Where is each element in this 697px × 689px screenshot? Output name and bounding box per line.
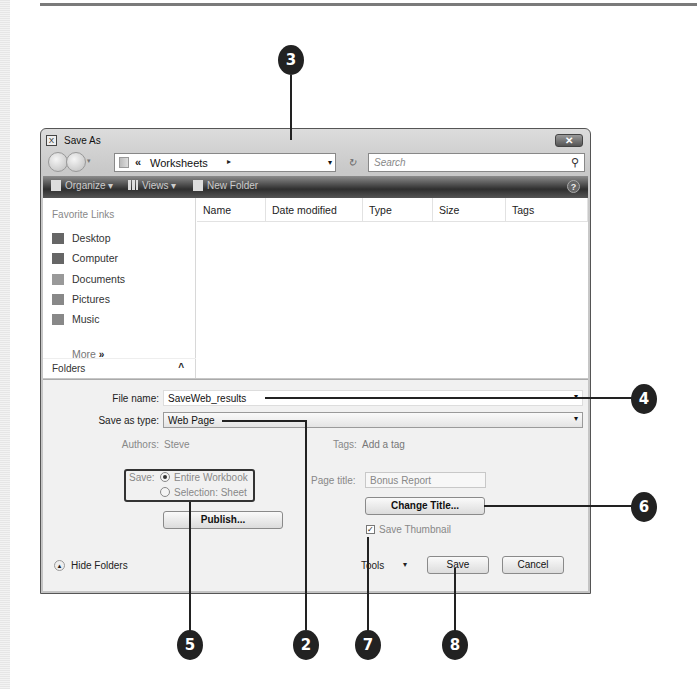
tools-dropdown-icon[interactable]: ▾ bbox=[403, 560, 407, 569]
sidebar-item-pictures[interactable]: Pictures bbox=[52, 293, 110, 307]
recent-pages-dropdown[interactable]: ▾ bbox=[87, 157, 91, 165]
address-bar[interactable]: « Worksheets ▸ ▾ bbox=[114, 153, 336, 172]
callout-2-line-h bbox=[222, 420, 306, 422]
sidebar-item-music[interactable]: Music bbox=[52, 313, 99, 327]
refresh-icon: ↻ bbox=[348, 157, 356, 168]
tools-menu[interactable]: Tools bbox=[361, 560, 384, 571]
dialog-title: Save As bbox=[64, 135, 101, 146]
callout-7: 7 bbox=[355, 630, 381, 660]
sidebar-item-documents[interactable]: Documents bbox=[52, 273, 125, 287]
authors-value[interactable]: Steve bbox=[164, 439, 190, 450]
organize-icon bbox=[51, 180, 61, 191]
tags-label: Tags: bbox=[333, 439, 357, 450]
sidebar-item-desktop[interactable]: Desktop bbox=[52, 232, 111, 246]
publish-button[interactable]: Publish... bbox=[163, 511, 283, 529]
save-button[interactable]: Save bbox=[427, 556, 489, 574]
callout-5-line bbox=[189, 502, 191, 632]
authors-label: Authors: bbox=[53, 439, 159, 450]
save-thumbnail-checkbox[interactable]: ✓ bbox=[366, 525, 375, 534]
callout-6: 6 bbox=[631, 492, 657, 522]
breadcrumb-overflow-icon[interactable]: « bbox=[135, 156, 141, 168]
breadcrumb-arrow-icon[interactable]: ▸ bbox=[227, 157, 231, 166]
desktop-icon bbox=[52, 233, 64, 244]
column-header-type[interactable]: Type bbox=[363, 198, 433, 222]
close-button[interactable]: ✕ bbox=[555, 134, 583, 147]
page-title-label: Page title: bbox=[311, 475, 355, 486]
save-as-type-label: Save as type: bbox=[53, 415, 159, 426]
forward-button[interactable] bbox=[66, 152, 86, 172]
column-header-tags[interactable]: Tags bbox=[506, 198, 588, 222]
callout-7-line bbox=[367, 537, 369, 632]
search-icon[interactable]: ⚲ bbox=[571, 156, 579, 169]
callout-5: 5 bbox=[177, 630, 203, 660]
folders-label: Folders bbox=[52, 363, 85, 374]
save-as-dialog: X Save As ✕ ▾ « Worksheets ▸ ▾ ↻ Search … bbox=[40, 128, 591, 594]
refresh-button[interactable]: ↻ bbox=[341, 153, 363, 172]
search-input[interactable]: Search ⚲ bbox=[368, 153, 585, 172]
callout-2: 2 bbox=[293, 630, 319, 660]
folder-icon bbox=[119, 157, 129, 168]
page-margin-strip bbox=[0, 0, 10, 689]
address-dropdown-icon[interactable]: ▾ bbox=[328, 158, 332, 167]
documents-icon bbox=[52, 274, 64, 285]
chevron-down-icon[interactable]: ▾ bbox=[574, 414, 578, 423]
hide-folders-button[interactable]: Hide Folders bbox=[71, 560, 128, 571]
help-icon[interactable]: ? bbox=[567, 180, 580, 193]
views-button[interactable]: Views ▾ bbox=[128, 180, 176, 191]
chevron-up-icon[interactable]: ▲ bbox=[54, 560, 65, 571]
views-icon bbox=[128, 180, 138, 190]
callout-8: 8 bbox=[442, 630, 468, 660]
new-folder-button[interactable]: New Folder bbox=[193, 180, 258, 191]
command-toolbar: Organize ▾ Views ▾ New Folder ? bbox=[43, 176, 588, 198]
cancel-button[interactable]: Cancel bbox=[502, 556, 564, 574]
page-title-input[interactable]: Bonus Report bbox=[365, 472, 486, 488]
favorite-links-title: Favorite Links bbox=[52, 209, 114, 220]
chevron-up-icon: ^ bbox=[178, 362, 184, 373]
change-title-button[interactable]: Change Title... bbox=[365, 497, 485, 515]
callout-6-line bbox=[484, 505, 634, 507]
folders-toggle[interactable]: Folders ^ bbox=[43, 358, 196, 378]
file-name-label: File name: bbox=[53, 393, 159, 404]
callout-5-highlight-box bbox=[124, 469, 255, 502]
callout-2-line-v bbox=[305, 420, 307, 630]
file-list[interactable]: Name Date modified Type Size Tags bbox=[197, 198, 588, 378]
callout-8-line bbox=[454, 568, 456, 632]
new-folder-icon bbox=[193, 180, 203, 191]
save-thumbnail-label[interactable]: Save Thumbnail bbox=[379, 524, 451, 535]
computer-icon bbox=[52, 253, 64, 264]
back-button[interactable] bbox=[48, 152, 68, 172]
navigation-row: ▾ « Worksheets ▸ ▾ ↻ Search ⚲ bbox=[41, 151, 590, 175]
callout-3-line bbox=[290, 75, 292, 140]
close-icon: ✕ bbox=[565, 135, 573, 146]
callout-4: 4 bbox=[631, 384, 657, 414]
title-bar: X Save As ✕ bbox=[41, 129, 590, 151]
browser-area: Favorite Links Desktop Computer Document… bbox=[43, 198, 588, 378]
tags-value[interactable]: Add a tag bbox=[362, 439, 405, 450]
column-header-date-modified[interactable]: Date modified bbox=[266, 198, 363, 222]
pictures-icon bbox=[52, 294, 64, 305]
breadcrumb-worksheets[interactable]: Worksheets bbox=[150, 157, 208, 169]
sidebar-item-computer[interactable]: Computer bbox=[52, 252, 118, 266]
column-header-size[interactable]: Size bbox=[433, 198, 506, 222]
callout-3: 3 bbox=[278, 45, 304, 75]
column-header-name[interactable]: Name bbox=[197, 198, 266, 222]
excel-app-icon: X bbox=[46, 135, 57, 146]
search-placeholder: Search bbox=[374, 157, 406, 168]
navigation-pane: Favorite Links Desktop Computer Document… bbox=[43, 198, 196, 378]
music-icon bbox=[52, 314, 64, 325]
organize-button[interactable]: Organize ▾ bbox=[51, 180, 113, 191]
callout-4-line bbox=[265, 397, 635, 399]
page-top-rule bbox=[40, 3, 697, 6]
